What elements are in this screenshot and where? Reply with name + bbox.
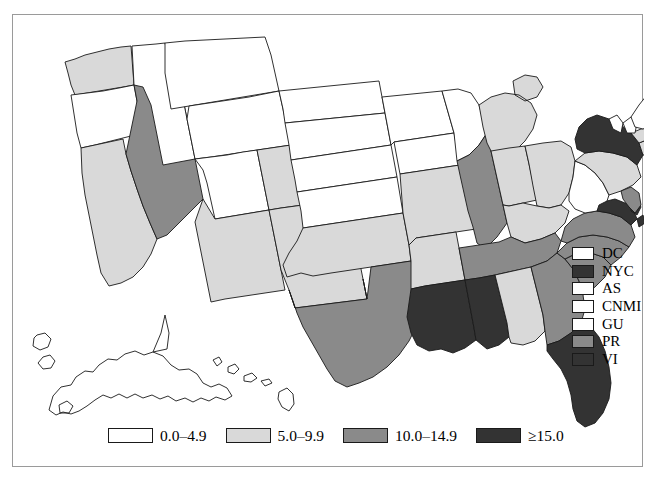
territory-legend-row: VI xyxy=(572,351,654,369)
rate-swatch xyxy=(108,428,153,443)
rate-label: ≥15.0 xyxy=(528,428,564,444)
state-KY[interactable] xyxy=(503,203,569,243)
territory-legend-row: DC xyxy=(572,245,654,263)
territory-label: PR xyxy=(602,334,620,349)
map-figure-frame: DCNYCASCNMIGUPRVI xyxy=(12,14,643,467)
state-AR[interactable] xyxy=(409,232,465,289)
territory-swatch xyxy=(572,300,594,313)
rate-label: 10.0–14.9 xyxy=(395,428,457,444)
territory-label: AS xyxy=(602,281,621,296)
rate-swatch xyxy=(476,428,521,443)
territory-swatch xyxy=(572,282,594,295)
map-svg xyxy=(13,15,644,468)
territory-swatch xyxy=(572,353,594,366)
rate-swatch xyxy=(226,428,271,443)
us-choropleth-map xyxy=(13,15,644,468)
territory-legend: DCNYCASCNMIGUPRVI xyxy=(572,245,654,368)
rate-legend-item: 10.0–14.9 xyxy=(343,428,457,444)
territory-label: VI xyxy=(602,352,618,367)
rate-legend: 0.0–4.95.0–9.910.0–14.9≥15.0 xyxy=(108,428,564,444)
territory-swatch xyxy=(572,318,594,331)
state-AK[interactable] xyxy=(33,333,232,415)
rate-swatch xyxy=(343,428,388,443)
territory-legend-row: AS xyxy=(572,280,654,298)
territory-swatch xyxy=(572,265,594,278)
territory-legend-row: CNMI xyxy=(572,298,654,316)
territory-label: GU xyxy=(602,317,624,332)
territory-legend-row: GU xyxy=(572,315,654,333)
rate-legend-item: 5.0–9.9 xyxy=(226,428,325,444)
rate-label: 0.0–4.9 xyxy=(160,428,207,444)
territory-label: NYC xyxy=(602,264,634,279)
state-LA[interactable] xyxy=(407,280,476,353)
territory-swatch xyxy=(572,247,594,260)
rate-label: 5.0–9.9 xyxy=(278,428,325,444)
state-AK-panhandle xyxy=(153,315,169,352)
rate-legend-item: 0.0–4.9 xyxy=(108,428,207,444)
territory-swatch xyxy=(572,335,594,348)
state-HI[interactable] xyxy=(213,357,294,411)
rate-legend-item: ≥15.0 xyxy=(476,428,564,444)
territory-label: DC xyxy=(602,246,623,261)
territory-label: CNMI xyxy=(602,299,641,314)
territory-legend-row: NYC xyxy=(572,263,654,281)
territory-legend-row: PR xyxy=(572,333,654,351)
